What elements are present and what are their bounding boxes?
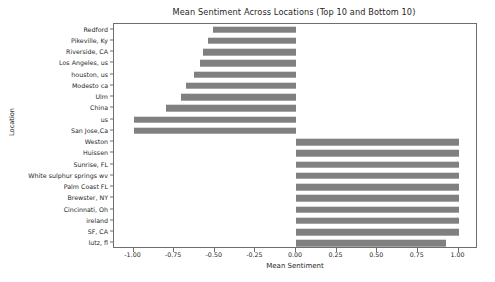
x-tick-label: 0.25 [329,251,343,258]
y-tick-label: White sulphur springs wv [28,171,108,178]
y-tick-label: Pikeville, Ky [71,36,108,43]
y-tick-mark [110,242,114,243]
y-tick-mark [110,197,114,198]
x-tick-mark [214,248,215,252]
x-tick-label: -1.00 [124,251,140,258]
x-tick-label: -0.25 [246,251,262,258]
x-tick-mark [458,248,459,252]
y-tick-label: Palm Coast FL [64,183,108,190]
bar [181,94,296,101]
y-tick-mark [110,96,114,97]
bar [296,150,459,157]
x-tick-label: -0.50 [206,251,222,258]
bar [296,184,459,191]
y-tick-label: Redford [83,25,108,32]
y-tick-mark [110,186,114,187]
bar [186,83,297,90]
bar [296,218,459,225]
bar-row [114,182,476,193]
x-tick-mark [336,248,337,252]
x-tick-mark [133,248,134,252]
y-tick-mark [110,118,114,119]
y-tick-label: Sunrise, FL [73,160,108,167]
y-tick-label: houston, us [71,70,108,77]
bar-row [114,137,476,148]
bar [200,60,296,67]
bar-row [114,238,476,248]
plot-area [113,23,477,248]
matplotlib-figure: Mean Sentiment Across Locations (Top 10 … [0,0,495,282]
bar [296,173,459,180]
x-axis-ticklabels: -1.00-0.75-0.50-0.250.000.250.500.751.00 [0,248,495,262]
bar-row [114,227,476,238]
bar-row [114,92,476,103]
bar [213,26,296,33]
bar [134,128,297,135]
y-tick-mark [110,163,114,164]
bar-row [114,103,476,114]
bar [134,116,297,123]
chart-title: Mean Sentiment Across Locations (Top 10 … [133,7,455,17]
bar-row [114,24,476,35]
bar [203,49,296,56]
bar-row [114,125,476,136]
bar-row [114,193,476,204]
bar-row [114,114,476,125]
y-tick-label: Ulm [96,93,109,100]
x-tick-label: 1.00 [450,251,464,258]
bar-row [114,35,476,46]
y-tick-mark [110,28,114,29]
y-tick-label: SF, CA [88,228,108,235]
y-tick-label: China [90,104,108,111]
bar [194,71,296,78]
bar [296,195,459,202]
y-tick-label: Riverside, CA [66,48,108,55]
y-tick-mark [110,174,114,175]
y-tick-mark [110,62,114,63]
x-tick-mark [254,248,255,252]
y-tick-label: Modesto ca [72,81,108,88]
y-tick-label: Weston [85,138,108,145]
bar [166,105,296,112]
y-tick-label: ireland [86,216,108,223]
y-tick-mark [110,219,114,220]
y-tick-label: lutz, fl [89,239,108,246]
x-tick-mark [295,248,296,252]
y-tick-label: Brewster, NY [67,194,108,201]
y-tick-mark [110,73,114,74]
bar-row [114,204,476,215]
y-tick-label: San Jose,Ca [71,126,108,133]
y-tick-mark [110,51,114,52]
y-axis-label: Location [8,92,16,152]
y-tick-mark [110,208,114,209]
bar [296,240,446,247]
y-tick-mark [110,141,114,142]
y-tick-mark [110,152,114,153]
y-tick-label: us [101,115,108,122]
x-tick-label: 0.50 [369,251,383,258]
x-axis-label: Mean Sentiment [113,262,477,270]
y-tick-label: Los Angeles, us [59,59,108,66]
x-tick-label: -0.75 [165,251,181,258]
y-tick-mark [110,39,114,40]
bar-row [114,215,476,226]
y-axis-ticklabels: RedfordPikeville, KyRiverside, CALos Ang… [0,0,108,282]
bar-row [114,159,476,170]
bar [296,139,459,146]
bar [296,161,459,168]
bar [296,229,459,236]
x-tick-mark [376,248,377,252]
x-tick-label: 0.00 [288,251,302,258]
bar-row [114,69,476,80]
x-tick-mark [173,248,174,252]
y-tick-mark [110,107,114,108]
x-tick-label: 0.75 [410,251,424,258]
bar [296,206,459,213]
bar-row [114,47,476,58]
bar-row [114,80,476,91]
y-tick-mark [110,84,114,85]
x-tick-mark [417,248,418,252]
y-tick-label: Cincinnati, Oh [64,205,108,212]
bar [208,38,296,45]
bar-row [114,58,476,69]
